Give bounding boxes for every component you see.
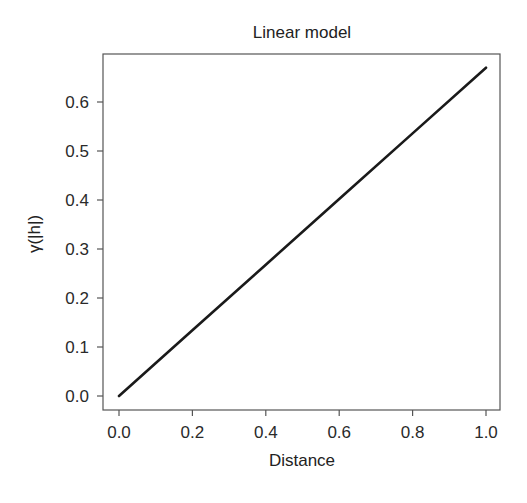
y-tick-label: 0.1 [65, 338, 89, 357]
y-tick-label: 0.2 [65, 289, 89, 308]
y-tick-label: 0.0 [65, 387, 89, 406]
y-axis-label: γ(|h|) [25, 215, 44, 253]
data-line [119, 68, 486, 396]
y-tick-label: 0.6 [65, 93, 89, 112]
y-tick-label: 0.3 [65, 240, 89, 259]
y-axis: 0.00.10.20.30.40.50.6 [65, 93, 103, 406]
x-tick-label: 1.0 [474, 423, 498, 442]
x-tick-label: 0.4 [254, 423, 278, 442]
chart: Linear model 0.00.10.20.30.40.50.6 0.00.… [0, 0, 527, 503]
chart-title: Linear model [253, 23, 351, 42]
x-tick-label: 0.8 [401, 423, 425, 442]
y-tick-label: 0.4 [65, 191, 89, 210]
x-axis: 0.00.20.40.60.81.0 [107, 410, 498, 442]
y-tick-label: 0.5 [65, 142, 89, 161]
x-tick-label: 0.6 [327, 423, 351, 442]
x-tick-label: 0.0 [107, 423, 131, 442]
x-axis-label: Distance [269, 451, 335, 470]
x-tick-label: 0.2 [181, 423, 205, 442]
